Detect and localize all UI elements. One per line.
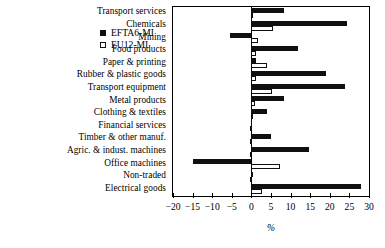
bar-eu12-mi bbox=[250, 177, 252, 182]
plot-inner bbox=[173, 7, 369, 196]
bar-eu12-mi bbox=[250, 126, 252, 131]
x-axis-tick bbox=[271, 193, 272, 198]
bar-eu12-mi bbox=[251, 164, 279, 169]
open-square-icon bbox=[100, 42, 106, 48]
bar-eu12-mi bbox=[250, 139, 252, 144]
category-label: Agric. & indust. machines bbox=[0, 145, 166, 155]
horizontal-bar-chart: Transport servicesChemicalsMiningFood pr… bbox=[0, 0, 385, 248]
x-axis-title: % bbox=[172, 222, 370, 233]
bar-efta6-mi bbox=[251, 96, 284, 101]
legend-item-eu12-mi: EU12-MI bbox=[100, 39, 192, 51]
bar-eu12-mi bbox=[250, 152, 252, 157]
category-label: Timber & other manuf. bbox=[0, 132, 166, 142]
x-axis-tick bbox=[251, 193, 252, 198]
x-axis-tick bbox=[349, 193, 350, 198]
category-label: Non-traded bbox=[0, 170, 166, 180]
bar-efta6-mi bbox=[251, 184, 361, 189]
x-axis: −20−15−10−5051015202530 bbox=[172, 197, 370, 198]
category-label: Paper & printing bbox=[0, 57, 166, 67]
bar-eu12-mi bbox=[251, 38, 257, 43]
x-axis-tick bbox=[173, 193, 174, 198]
chart-legend: EFTA6-MI EU12-MI bbox=[100, 27, 192, 51]
category-label: Office machines bbox=[0, 158, 166, 168]
plot-area bbox=[172, 6, 370, 197]
x-axis-tick bbox=[193, 193, 194, 198]
bar-eu12-mi bbox=[251, 76, 256, 81]
bar-efta6-mi bbox=[230, 33, 252, 38]
x-axis-tick bbox=[212, 193, 213, 198]
x-axis-tick-label: 30 bbox=[354, 201, 384, 212]
category-label: Rubber & plastic goods bbox=[0, 69, 166, 79]
category-label: Transport services bbox=[0, 6, 166, 16]
x-axis-tick bbox=[330, 193, 331, 198]
bar-eu12-mi bbox=[251, 189, 261, 194]
legend-label-eu12-mi: EU12-MI bbox=[111, 39, 148, 51]
x-axis-tick bbox=[232, 193, 233, 198]
bar-efta6-mi bbox=[251, 8, 283, 13]
bar-eu12-mi bbox=[251, 101, 255, 106]
bar-eu12-mi bbox=[251, 51, 256, 56]
bar-efta6-mi bbox=[251, 71, 326, 76]
category-label: Electrical goods bbox=[0, 183, 166, 193]
bar-efta6-mi bbox=[251, 109, 267, 114]
bar-efta6-mi bbox=[251, 134, 271, 139]
x-axis-tick bbox=[369, 193, 370, 198]
bar-efta6-mi bbox=[193, 159, 252, 164]
bar-efta6-mi bbox=[251, 147, 308, 152]
category-label: Financial services bbox=[0, 120, 166, 130]
bar-eu12-mi bbox=[251, 26, 272, 31]
filled-square-icon bbox=[100, 30, 106, 36]
bar-eu12-mi bbox=[251, 89, 272, 94]
category-label: Clothing & textiles bbox=[0, 107, 166, 117]
bar-eu12-mi bbox=[251, 13, 253, 18]
bar-eu12-mi bbox=[251, 63, 267, 68]
legend-item-efta6-mi: EFTA6-MI bbox=[100, 27, 192, 39]
bar-efta6-mi bbox=[251, 46, 297, 51]
legend-label-efta6-mi: EFTA6-MI bbox=[111, 27, 154, 39]
category-label: Transport equipment bbox=[0, 82, 166, 92]
bar-eu12-mi bbox=[251, 114, 253, 119]
x-axis-tick bbox=[310, 193, 311, 198]
category-label: Metal products bbox=[0, 95, 166, 105]
x-axis-tick bbox=[291, 193, 292, 198]
